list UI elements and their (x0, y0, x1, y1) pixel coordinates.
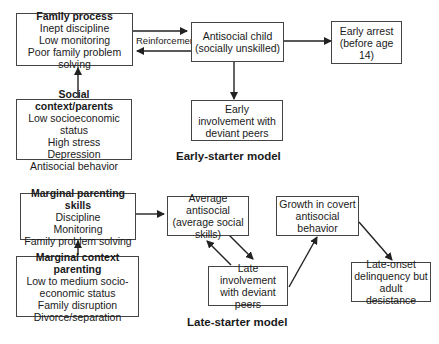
marginal-context-line: Low to medium socio- (26, 275, 128, 287)
marginal-context-title: Marginal context parenting (19, 251, 136, 275)
marginal-parenting-line: Monitoring (53, 223, 102, 235)
late-involvement-line: Late involvement (211, 262, 285, 286)
late-starter-caption: Late-starter model (187, 316, 287, 328)
marginal-parenting-title: Marginal parenting skills (23, 187, 133, 211)
early-arrest-line: (before age 14) (334, 37, 399, 61)
social-context-line: Low socioeconomic status (19, 112, 129, 136)
antisocial-child-line: Antisocial child (203, 30, 272, 42)
social-context-line: Depression (47, 148, 100, 160)
early-arrest-line: Early arrest (340, 25, 394, 37)
antisocial-child-line: (socially unskilled) (195, 42, 280, 54)
average-antisocial-line: Average antisocial (170, 192, 246, 216)
covert-growth-line: Growth in covert (279, 198, 355, 210)
family-process-box: Family process Inept discipline Low moni… (16, 13, 133, 66)
social-context-box: Social context/parents Low socioeconomic… (16, 99, 132, 160)
early-involvement-box: Early involvement with deviant peers (191, 100, 283, 141)
marginal-parenting-line: Discipline (56, 211, 101, 223)
marginal-context-box: Marginal context parenting Low to medium… (16, 256, 139, 317)
social-context-line: Antisocial behavior (30, 160, 118, 172)
late-onset-line: adult desistance (354, 282, 428, 306)
early-involvement-line: involvement with (198, 115, 276, 127)
early-arrest-box: Early arrest (before age 14) (331, 21, 402, 64)
family-process-title: Family process (36, 10, 112, 22)
early-involvement-line: Early (225, 103, 249, 115)
late-onset-line: delinquency but (354, 270, 428, 282)
average-antisocial-line: skills) (195, 228, 221, 240)
reinforcement-label: Reinforcement (136, 35, 198, 46)
average-antisocial-line: (average social (172, 216, 243, 228)
late-onset-box: Late-onset delinquency but adult desista… (351, 262, 431, 302)
covert-growth-line: antisocial behavior (279, 210, 356, 234)
early-involvement-line: deviant peers (205, 127, 268, 139)
marginal-context-line: Divorce/separation (34, 311, 122, 323)
social-context-title: Social context/parents (19, 88, 129, 112)
late-involvement-line: with deviant peers (211, 286, 285, 310)
average-antisocial-box: Average antisocial (average social skill… (167, 196, 249, 236)
antisocial-child-box: Antisocial child (socially unskilled) (191, 22, 284, 62)
covert-growth-box: Growth in covert antisocial behavior (276, 196, 359, 236)
family-process-line: Inept discipline (40, 22, 109, 34)
marginal-parenting-box: Marginal parenting skills Discipline Mon… (20, 193, 136, 240)
late-involvement-box: Late involvement with deviant peers (208, 266, 288, 306)
marginal-context-line: Family disruption (38, 299, 117, 311)
social-context-line: High stress (48, 136, 101, 148)
marginal-parenting-line: Family problem solving (24, 235, 131, 247)
family-process-line: Poor family problem solving (19, 46, 130, 70)
family-process-line: Low monitoring (39, 34, 110, 46)
early-starter-caption: Early-starter model (176, 150, 281, 162)
late-onset-line: Late-onset (366, 258, 416, 270)
marginal-context-line: economic status (40, 287, 116, 299)
